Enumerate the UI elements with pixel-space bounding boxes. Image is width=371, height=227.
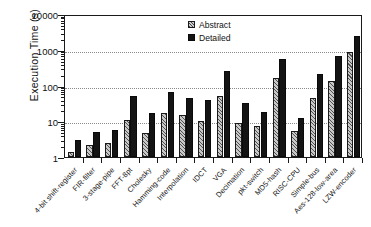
bar-group [158, 16, 177, 157]
y-tick-label: 10 [12, 117, 58, 128]
bar-detailed[interactable] [242, 103, 248, 157]
bar-abstract[interactable] [179, 115, 185, 157]
bar-detailed[interactable] [205, 100, 211, 157]
x-tick-mark [269, 158, 270, 163]
x-tick-mark [250, 158, 251, 163]
bar-group [344, 16, 363, 157]
y-tick-mark [58, 158, 64, 159]
x-tick-mark [120, 158, 121, 163]
bar-group [102, 16, 121, 157]
bar-abstract[interactable] [124, 120, 130, 157]
legend-swatch-abstract-icon [188, 21, 195, 28]
bar-group [140, 16, 159, 157]
legend-item-detailed: Detailed [188, 32, 231, 43]
bar-abstract[interactable] [273, 78, 279, 157]
bar-abstract[interactable] [328, 81, 334, 157]
bar-detailed[interactable] [224, 71, 230, 157]
y-tick-label: 1 [12, 153, 58, 164]
bar-detailed[interactable] [335, 56, 341, 157]
bar-abstract[interactable] [105, 143, 111, 157]
bar-group [233, 16, 252, 157]
chart-figure: Execution Time (s) 110100100010000 4-bit… [0, 0, 371, 227]
bar-detailed[interactable] [149, 113, 155, 157]
chart-legend: Abstract Detailed [188, 19, 231, 45]
bar-detailed[interactable] [75, 140, 81, 157]
bar-detailed[interactable] [298, 118, 304, 157]
bar-detailed[interactable] [279, 59, 285, 157]
bar-detailed[interactable] [93, 132, 99, 157]
x-tick-mark [157, 158, 158, 163]
x-tick-mark [213, 158, 214, 163]
bar-detailed[interactable] [317, 74, 323, 157]
x-tick-mark [306, 158, 307, 163]
x-tick-mark [101, 158, 102, 163]
bar-group [251, 16, 270, 157]
y-tick-label: 100 [12, 81, 58, 92]
legend-item-abstract: Abstract [188, 19, 231, 30]
x-tick-mark [232, 158, 233, 163]
y-tick-label: 10000 [12, 10, 58, 21]
bar-abstract[interactable] [310, 98, 316, 157]
bar-group [289, 16, 308, 157]
bar-abstract[interactable] [254, 126, 260, 157]
bar-group [326, 16, 345, 157]
bar-abstract[interactable] [347, 52, 353, 157]
bar-detailed[interactable] [354, 36, 360, 157]
bar-detailed[interactable] [168, 92, 174, 158]
x-tick-mark [288, 158, 289, 163]
bar-detailed[interactable] [130, 96, 136, 157]
bar-abstract[interactable] [68, 152, 74, 157]
bar-abstract[interactable] [217, 96, 223, 157]
bar-group [121, 16, 140, 157]
bar-abstract[interactable] [142, 133, 148, 157]
legend-label-abstract: Abstract [199, 20, 231, 30]
x-tick-mark [139, 158, 140, 163]
bar-abstract[interactable] [291, 131, 297, 157]
x-tick-mark [194, 158, 195, 163]
x-tick-mark [83, 158, 84, 163]
bar-abstract[interactable] [235, 123, 241, 157]
x-tick-mark [176, 158, 177, 163]
legend-label-detailed: Detailed [199, 33, 231, 43]
bar-detailed[interactable] [186, 98, 192, 157]
x-tick-mark [362, 158, 363, 163]
bar-abstract[interactable] [161, 113, 167, 157]
x-tick-mark [343, 158, 344, 163]
bar-detailed[interactable] [261, 112, 267, 157]
legend-swatch-detailed-icon [188, 34, 195, 41]
bar-abstract[interactable] [198, 121, 204, 158]
y-tick-label: 1000 [12, 45, 58, 56]
bar-abstract[interactable] [86, 145, 92, 157]
bar-group [270, 16, 289, 157]
bar-detailed[interactable] [112, 130, 118, 157]
x-tick-mark [325, 158, 326, 163]
bar-group [84, 16, 103, 157]
bar-group [307, 16, 326, 157]
bar-group [65, 16, 84, 157]
